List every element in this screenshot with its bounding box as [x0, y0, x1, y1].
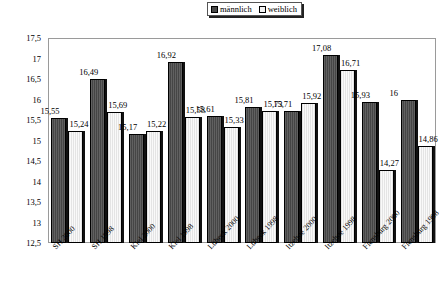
bar-value-label-maennlich: 15,93	[351, 91, 370, 100]
bar-value-label-weiblich: 15,69	[108, 101, 127, 110]
legend-label-weiblich: weiblich	[268, 5, 297, 14]
bar-group	[362, 38, 394, 243]
bar-group	[207, 38, 239, 243]
legend-entry-weiblich: weiblich	[259, 5, 297, 14]
bar-value-label-maennlich: 16	[390, 89, 399, 98]
bar-maennlich[interactable]	[90, 79, 105, 243]
bar-value-label-weiblich: 15,33	[225, 116, 244, 125]
bar-group	[245, 38, 277, 243]
bars-layer: 15,5515,2416,4915,6915,1715,2216,9215,58…	[48, 38, 436, 243]
bar-weiblich[interactable]	[107, 112, 122, 243]
bar-value-label-maennlich: 15,55	[40, 107, 59, 116]
bar-value-label-weiblich: 15,22	[147, 120, 166, 129]
bar-value-label-maennlich: 16,49	[79, 68, 98, 77]
bar-maennlich[interactable]	[168, 62, 183, 243]
bar-value-label-weiblich: 15,92	[302, 92, 321, 101]
bar-value-label-maennlich: 16,92	[157, 51, 176, 60]
x-axis: SH 2000SH 1998Kiel 2000Kiel 1998Lübeck 2…	[48, 245, 448, 307]
y-axis-tick-label: 14,5	[26, 157, 41, 166]
bar-value-label-weiblich: 14,27	[380, 159, 399, 168]
legend-entry-maennlich: männlich	[211, 5, 252, 14]
y-axis-tick-label: 17,5	[26, 34, 41, 43]
bar-value-label-weiblich: 16,71	[341, 59, 360, 68]
bar-maennlich[interactable]	[323, 55, 338, 243]
y-axis-tick-label: 14	[33, 177, 42, 186]
bar-maennlich[interactable]	[129, 134, 144, 243]
bar-value-label-maennlich: 15,61	[196, 105, 215, 114]
legend-swatch-maennlich-icon	[211, 6, 218, 13]
bar-group	[168, 38, 200, 243]
legend-swatch-weiblich-icon	[259, 6, 266, 13]
bar-maennlich[interactable]	[284, 111, 299, 243]
bar-value-label-weiblich: 14,86	[419, 135, 438, 144]
y-axis-tick-label: 15,5	[26, 116, 41, 125]
y-axis-tick-label: 16	[33, 95, 42, 104]
legend-label-maennlich: männlich	[220, 5, 252, 14]
bar-maennlich[interactable]	[207, 116, 222, 244]
chart-legend: männlich weiblich	[207, 2, 302, 16]
y-axis-tick-label: 16,5	[26, 75, 41, 84]
bar-value-label-maennlich: 15,81	[234, 96, 253, 105]
y-axis-tick-label: 15	[33, 136, 42, 145]
bar-group	[284, 38, 316, 243]
bar-maennlich[interactable]	[362, 102, 377, 243]
y-axis-tick-label: 13	[33, 218, 42, 227]
bar-group	[323, 38, 355, 243]
bar-maennlich[interactable]	[401, 100, 416, 244]
y-axis-tick-label: 12,5	[26, 239, 41, 248]
bar-value-label-maennlich: 17,08	[312, 44, 331, 53]
bar-maennlich[interactable]	[245, 107, 260, 243]
bar-maennlich[interactable]	[51, 118, 66, 243]
bar-value-label-weiblich: 15,24	[69, 120, 88, 129]
y-axis: 17,51716,51615,51514,51413,51312,5	[0, 38, 45, 243]
bar-group	[129, 38, 161, 243]
y-axis-tick-label: 17	[33, 54, 42, 63]
bar-value-label-maennlich: 15,71	[273, 100, 292, 109]
bar-value-label-maennlich: 15,17	[118, 123, 137, 132]
y-axis-tick-label: 13,5	[26, 198, 41, 207]
